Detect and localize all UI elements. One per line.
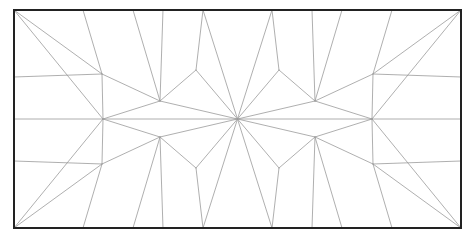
tessellation-diagram [0, 0, 475, 239]
figure-root [0, 0, 475, 239]
